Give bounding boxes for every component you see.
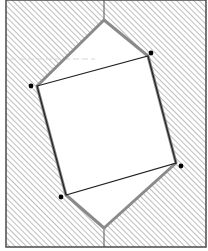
corner-dot [59, 195, 64, 200]
corner-dot [149, 51, 154, 56]
hatched-region [6, 0, 206, 247]
hatch-fill [6, 0, 206, 247]
corner-dot [179, 164, 184, 169]
geometry-diagram [0, 0, 208, 251]
diagram-canvas [0, 0, 208, 251]
corner-dot [29, 84, 34, 89]
